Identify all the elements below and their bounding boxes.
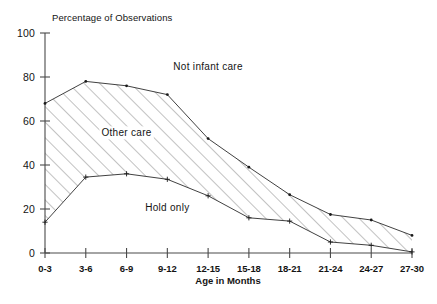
x-tick-label: 18-21 (278, 263, 303, 274)
chart-container: 020406080100 0-33-66-99-1212-1515-1818-2… (0, 0, 437, 304)
x-tick-label: 0-3 (38, 263, 51, 274)
x-tick-label: 12-15 (196, 263, 221, 274)
x-tick-label: 6-9 (120, 263, 133, 274)
y-tick-label: 80 (23, 71, 35, 83)
y-tick-label: 100 (17, 27, 35, 39)
y-tick-label: 0 (29, 247, 35, 259)
data-point-marker (411, 234, 414, 237)
chart-title: Percentage of Observations (52, 12, 173, 23)
y-tick-label: 60 (23, 115, 35, 127)
data-point-marker (166, 93, 169, 96)
x-axis-tick-labels: 0-33-66-99-1212-1515-1818-2121-2424-2727… (38, 263, 424, 274)
y-tick-label: 20 (23, 203, 35, 215)
data-point-marker (44, 102, 47, 105)
hatched-band-other-care (45, 81, 412, 252)
x-tick-label: 3-6 (79, 263, 92, 274)
region-label: Hold only (145, 202, 189, 213)
y-tick-label: 40 (23, 159, 35, 171)
data-point-marker (125, 84, 128, 87)
x-tick-label: 27-30 (400, 263, 424, 274)
x-tick-label: 9-12 (158, 263, 177, 274)
data-point-marker (329, 213, 332, 216)
x-tick-label: 21-24 (319, 263, 344, 274)
x-tick-label: 24-27 (359, 263, 383, 274)
x-axis-title: Age in Months (195, 275, 260, 286)
observations-area-chart: 020406080100 0-33-66-99-1212-1515-1818-2… (0, 0, 437, 304)
data-point-marker (288, 193, 291, 196)
data-point-marker (247, 166, 250, 169)
data-point-marker (84, 80, 87, 83)
y-axis-tick-labels: 020406080100 (17, 27, 35, 259)
x-tick-label: 15-18 (237, 263, 261, 274)
region-label: Not infant care (173, 61, 243, 72)
region-label: Other care (101, 127, 151, 138)
data-point-marker (370, 219, 373, 222)
data-point-marker (207, 137, 210, 140)
